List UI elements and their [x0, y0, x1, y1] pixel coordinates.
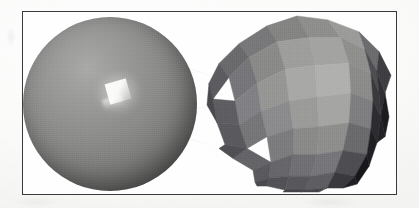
polyhedron-facet: [315, 63, 351, 97]
scan-smudge-bottom-left: [10, 196, 60, 208]
flat-shaded-polyhedron: [201, 14, 395, 194]
scan-smudge-bottom-right: [300, 196, 360, 208]
polyhedron-facet: [283, 190, 305, 192]
smooth-shaded-sphere: [23, 17, 197, 191]
polyhedron-facet: [285, 65, 317, 101]
facet-group: [207, 16, 391, 192]
figure-canvas: [23, 12, 396, 194]
polyhedron-facet: [289, 97, 319, 129]
polyhedron-facet-mesh: [201, 14, 395, 194]
polyhedron-facet: [267, 176, 289, 190]
polyhedron-facet: [317, 93, 351, 127]
scan-smudge-top-left: [6, 26, 16, 48]
figure-frame-border: [22, 11, 397, 195]
polyhedron-facet: [293, 127, 319, 155]
